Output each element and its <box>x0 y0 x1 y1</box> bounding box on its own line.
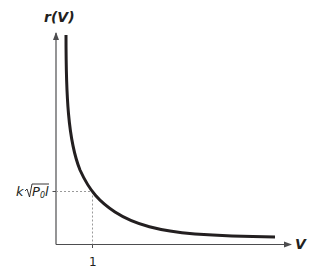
svg-text:k: k <box>16 184 24 199</box>
y-axis-label: r(V) <box>44 9 75 25</box>
svg-text:l: l <box>45 184 49 199</box>
chart-canvas: r(V) V 1 k P 0 l <box>0 0 327 275</box>
y-tick-label: k P 0 l <box>16 184 49 200</box>
curve-r-of-v <box>66 35 275 237</box>
svg-text:P: P <box>32 184 40 199</box>
x-tick-label: 1 <box>89 255 97 269</box>
x-axis-label: V <box>295 236 307 252</box>
